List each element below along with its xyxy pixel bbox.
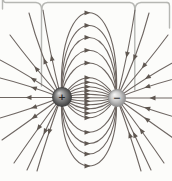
positive-charge-sign: +	[58, 91, 66, 102]
field-line	[61, 26, 116, 94]
field-arrowhead	[85, 75, 91, 80]
field-arrowhead	[85, 106, 91, 111]
field-arrowhead	[85, 84, 91, 89]
field-line	[2, 98, 61, 141]
field-arrowhead	[30, 104, 37, 110]
field-arrowhead	[85, 141, 91, 146]
field-arrowhead	[46, 128, 52, 135]
field-arrowhead	[144, 74, 152, 81]
field-line	[61, 103, 116, 166]
field-arrowhead	[85, 102, 91, 107]
callout-leader-line	[167, 3, 170, 29]
field-arrowhead	[85, 48, 91, 53]
field-arrowhead	[144, 105, 151, 111]
field-line	[43, 10, 61, 98]
field-line	[62, 103, 117, 154]
field-arrowhead	[41, 57, 48, 64]
field-arrowhead	[85, 111, 91, 116]
field-arrowhead	[30, 85, 37, 91]
field-line	[14, 98, 61, 164]
field-arrowhead	[29, 75, 37, 82]
field-arrowhead	[144, 84, 151, 90]
field-arrowhead	[85, 10, 91, 15]
field-arrowhead	[85, 61, 91, 66]
field-arrowhead	[85, 115, 91, 120]
field-arrowhead	[85, 35, 91, 40]
field-line	[0, 98, 61, 119]
field-line	[117, 98, 172, 140]
field-arrowhead	[85, 164, 91, 169]
field-arrowhead	[85, 130, 91, 135]
field-arrowhead	[26, 95, 32, 100]
field-arrowhead	[150, 96, 156, 101]
field-arrowhead	[127, 131, 133, 138]
dipole-field-figure: +−	[0, 0, 172, 181]
negative-charge-sign: −	[113, 92, 121, 103]
callout-leader-line	[135, 3, 167, 10]
field-arrowhead	[85, 152, 91, 157]
figure-canvas: +−	[0, 0, 172, 181]
field-arrowhead	[85, 23, 91, 28]
field-line	[37, 98, 61, 172]
field-arrowhead	[85, 80, 91, 85]
field-arrowhead	[41, 128, 48, 135]
